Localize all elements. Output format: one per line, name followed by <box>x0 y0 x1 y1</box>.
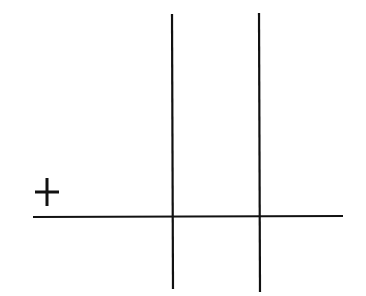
horizontal-line <box>33 216 343 217</box>
plus-sign-icon <box>35 178 59 206</box>
line-diagram <box>0 0 366 296</box>
vertical-line-right <box>259 13 260 292</box>
vertical-line-left <box>172 14 173 289</box>
